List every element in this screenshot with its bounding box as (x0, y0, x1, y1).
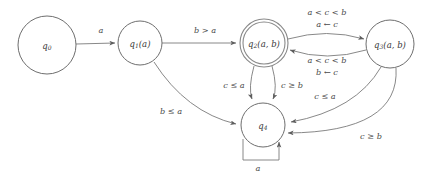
edge-label-q3-q4-upper: c ≤ a (314, 91, 336, 101)
edge-label-q2-q3-action: a ← c (316, 19, 338, 29)
edge-label-q3-q2-cond: a < c < b (308, 55, 347, 65)
transition-q0-q1[interactable]: a (76, 25, 115, 44)
edge-label-q1-q2: b > a (194, 25, 216, 35)
edge-label-q4-self: a (256, 163, 261, 173)
transition-q3-q2[interactable]: a < c < b b ← c (290, 50, 366, 77)
automaton-canvas: a b > a a < c < b a ← c a < c < b b ← c (0, 0, 431, 176)
edge-line-q3-q4-lower (288, 68, 396, 133)
automaton-diagram: a b > a a < c < b a ← c a < c < b b ← c (0, 0, 431, 176)
state-q3[interactable]: q3(a, b) (366, 20, 414, 68)
edge-line-q0-q1 (76, 43, 115, 44)
edge-label-q3-q2-action: b ← c (316, 67, 338, 77)
transition-q1-q4[interactable]: b ≤ a (154, 62, 236, 124)
transition-q2-q3[interactable]: a < c < b a ← c (288, 7, 364, 39)
state-q0[interactable]: q0 (18, 16, 76, 74)
edge-label-q2-q4-left: c ≤ a (223, 80, 245, 90)
state-q4[interactable]: q4 (241, 103, 285, 147)
state-label-q3: q3(a, b) (374, 40, 406, 50)
state-q1[interactable]: q1(a) (118, 21, 162, 65)
edge-line-q2-q4-right (272, 66, 275, 99)
state-q2[interactable]: q2(a, b) (240, 19, 288, 67)
transition-q2-q4-right[interactable]: c ≥ b (272, 66, 303, 99)
edge-label-q2-q4-right: c ≥ b (281, 80, 303, 90)
state-label-q2: q2(a, b) (248, 39, 280, 49)
edge-label-q0-q1: a (99, 25, 104, 35)
edge-label-q1-q4: b ≤ a (160, 106, 182, 116)
edge-label-q3-q4-lower: c ≥ b (360, 131, 382, 141)
states-layer: q0 q1(a) q2(a, b) q3(a, b) q4 (18, 16, 414, 147)
transition-q1-q2[interactable]: b > a (162, 25, 236, 43)
state-label-q1: q1(a) (130, 39, 151, 49)
edge-line-q2-q3 (288, 34, 364, 40)
edge-line-q2-q4-left (250, 66, 254, 99)
edge-label-q2-q3-cond: a < c < b (308, 7, 347, 17)
transition-q2-q4-left[interactable]: c ≤ a (223, 66, 254, 99)
